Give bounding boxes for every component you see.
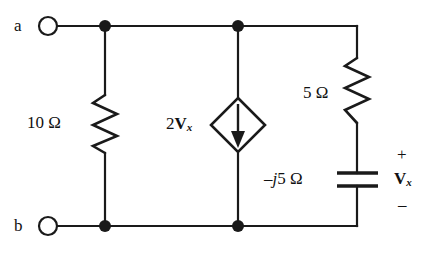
terminal-b-label: b: [14, 217, 23, 234]
resistor-5ohm-label: 5 Ω: [303, 84, 328, 101]
capacitor-unit: Ω: [290, 169, 303, 188]
voltage-minus-sign: –: [398, 196, 407, 213]
voltage-vx-label: Vx: [394, 170, 412, 188]
junction-dot-top-left: [99, 20, 111, 32]
junction-dot-bottom-mid: [232, 220, 244, 232]
terminal-a-label: a: [14, 17, 22, 34]
terminal-a-circle: [39, 17, 57, 35]
capacitor-sign: –: [264, 169, 273, 188]
source-variable-subscript: x: [187, 121, 193, 133]
source-coefficient: 2: [166, 114, 175, 133]
resistor-10ohm-symbol: [93, 95, 117, 153]
voltage-plus-sign: +: [397, 146, 407, 163]
junction-dot-top-mid: [232, 20, 244, 32]
dependent-source-label: 2Vx: [166, 115, 192, 133]
junction-dot-bottom-left: [99, 220, 111, 232]
voltage-variable: V: [394, 169, 406, 188]
terminal-b-circle: [39, 217, 57, 235]
circuit-schematic-svg: [0, 0, 436, 255]
source-variable: V: [175, 114, 187, 133]
circuit-diagram-figure: a b 10 Ω 5 Ω 2Vx –j5 Ω + Vx –: [0, 0, 436, 255]
resistor-10ohm-label: 10 Ω: [27, 114, 61, 131]
capacitor-impedance-label: –j5 Ω: [264, 170, 303, 187]
capacitor-value: 5: [277, 169, 286, 188]
voltage-variable-subscript: x: [406, 176, 412, 188]
resistor-5ohm-symbol: [345, 58, 369, 123]
